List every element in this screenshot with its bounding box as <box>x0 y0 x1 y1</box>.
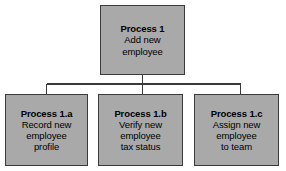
process-node-description-line: tax status <box>121 141 161 152</box>
process-node-title: Process 1.c <box>211 108 263 119</box>
process-node-description-line: Verify new <box>119 119 162 130</box>
process-node-title: Process 1.a <box>21 108 73 119</box>
process-node-description-line: Assign new <box>213 119 261 130</box>
process-node-title: Process 1.b <box>114 108 166 119</box>
process-node-description-line: employee <box>120 130 160 141</box>
process-node-process-1c: Process 1.c Assign new employee to team <box>194 94 279 166</box>
process-node-process-1: Process 1 Add new employee <box>100 5 185 75</box>
process-node-process-1b: Process 1.b Verify new employee tax stat… <box>98 94 183 166</box>
process-node-description-line: employee <box>26 130 66 141</box>
process-node-description-line: Record new <box>22 119 72 130</box>
process-node-title: Process 1 <box>121 23 165 34</box>
process-hierarchy-diagram: Process 1 Add new employee Process 1.a R… <box>0 0 286 171</box>
process-node-description-line: Add new <box>124 34 160 45</box>
process-node-description-line: to team <box>221 141 252 152</box>
process-node-process-1a: Process 1.a Record new employee profile <box>5 94 88 166</box>
process-node-description-line: employee <box>216 130 256 141</box>
process-node-description-line: employee <box>122 46 162 57</box>
process-node-description-line: profile <box>34 141 59 152</box>
